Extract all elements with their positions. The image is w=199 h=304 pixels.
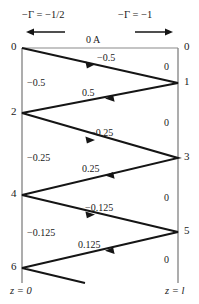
left-reflection-arrow <box>26 29 65 36</box>
left-value-3: −0.125 <box>27 228 55 238</box>
forward-wave-value-1: −0.5 <box>97 53 115 63</box>
right-value-2: 0 <box>164 118 169 128</box>
forward-wave-value-3: −0.125 <box>85 203 113 213</box>
left-tick-6: 6 <box>11 261 17 272</box>
left-value-2: −0.25 <box>27 153 50 163</box>
right-value-1: 0 <box>164 62 169 72</box>
right-value-4: 0 <box>164 255 169 265</box>
backward-wave-value-3: 0.125 <box>78 240 101 250</box>
forward-wave-value-2: −0.25 <box>90 128 113 138</box>
left-tick-0: 0 <box>11 41 17 52</box>
right-position-label: z = l <box>165 286 184 297</box>
backward-wave-value-2: 0.25 <box>82 164 100 174</box>
right-reflection-arrow <box>135 29 173 36</box>
right-tick-5: 5 <box>184 225 190 236</box>
right-tick-1: 1 <box>184 76 190 87</box>
left-position-label: z = 0 <box>10 286 32 297</box>
left-value-1: −0.5 <box>27 78 45 88</box>
left-tick-4: 4 <box>11 188 17 199</box>
backward-wave-value-1: 0.5 <box>82 88 95 98</box>
right-tick-0: 0 <box>184 41 190 52</box>
arrowhead-backward-2 <box>105 172 115 179</box>
left-tick-2: 2 <box>11 106 17 117</box>
right-value-3: 0 <box>164 193 169 203</box>
bounce-diagram-figure: −Γ = −1/2 −Γ = −1 0 A 0 2 4 6 0 1 3 5 −0… <box>0 0 199 304</box>
source-amplitude-label: 0 A <box>86 35 100 45</box>
right-tick-3: 3 <box>184 151 190 162</box>
left-reflection-coefficient-label: −Γ = −1/2 <box>22 10 65 21</box>
right-reflection-coefficient-label: −Γ = −1 <box>118 10 152 21</box>
